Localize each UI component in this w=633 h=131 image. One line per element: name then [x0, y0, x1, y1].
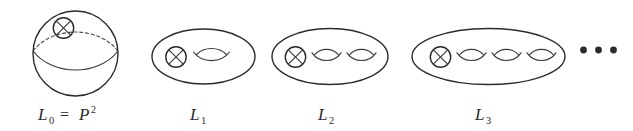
label-L0-rhs-superscript: 2 — [91, 104, 96, 115]
handle-upper-arc — [495, 49, 519, 55]
handle-lower-arc — [457, 53, 486, 61]
label-L0-rhs-base: P — [78, 105, 89, 124]
surface-L0: L 0 = P 2 — [33, 11, 118, 126]
label-L0-subscript: 0 — [49, 115, 54, 126]
label-L3-subscript: 3 — [486, 115, 491, 126]
surface-outline — [152, 29, 255, 84]
ellipsis-icon — [580, 47, 617, 54]
surface-L2: L 2 — [272, 29, 388, 127]
label-L0-base: L — [37, 105, 47, 124]
handle-lower-arc — [492, 53, 521, 61]
handle-upper-arc — [460, 49, 484, 55]
ellipsis-dot — [610, 47, 617, 54]
surface-outline — [272, 29, 388, 85]
label-L3-base: L — [474, 105, 484, 124]
handle-upper-arc — [350, 49, 374, 55]
label-L1-subscript: 1 — [201, 115, 206, 126]
handle-lower-arc — [347, 53, 376, 61]
label-L2-base: L — [317, 105, 327, 124]
handle-icon — [492, 49, 521, 60]
label-L1: L 1 — [189, 105, 206, 126]
sphere-equator-front — [33, 51, 118, 70]
label-L2: L 2 — [317, 105, 334, 126]
label-L1-base: L — [189, 105, 199, 124]
handle-icon — [457, 49, 486, 60]
figure-canvas: L 0 = P 2 L 1 — [0, 0, 633, 131]
handle-icon — [194, 49, 230, 61]
label-L0-equals: = — [60, 106, 69, 123]
surface-outline — [412, 29, 565, 85]
crosscap-icon — [430, 47, 450, 67]
handle-lower-arc — [527, 53, 556, 61]
label-L3: L 3 — [474, 105, 491, 126]
label-L2-subscript: 2 — [329, 115, 334, 126]
label-L0: L 0 = P 2 — [37, 104, 96, 126]
ellipsis-dot — [580, 47, 587, 54]
crosscap-icon — [53, 18, 73, 38]
ellipsis-dot — [595, 47, 602, 54]
surface-sequence-figure: L 0 = P 2 L 1 — [0, 0, 633, 131]
handle-upper-arc — [197, 49, 227, 55]
handle-upper-arc — [315, 49, 339, 55]
handle-icon — [312, 49, 341, 60]
surface-L3: L 3 — [412, 29, 565, 127]
handle-icon — [347, 49, 376, 60]
crosscap-icon — [166, 47, 186, 67]
surface-L1: L 1 — [152, 29, 255, 126]
handle-lower-arc — [312, 53, 341, 61]
crosscap-icon — [285, 47, 305, 67]
handle-upper-arc — [530, 49, 554, 55]
handle-lower-arc — [194, 52, 230, 61]
sphere-equator-back — [33, 32, 118, 51]
handle-icon — [527, 49, 556, 60]
sphere-outline — [33, 11, 118, 96]
